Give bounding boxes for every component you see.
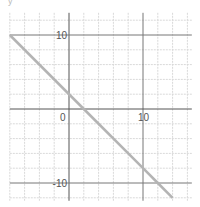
x-tick-label: 0 — [60, 112, 66, 123]
x-tick-label: 10 — [138, 112, 150, 123]
line-chart: 01010-10 — [0, 0, 200, 207]
y-tick-label: 10 — [56, 30, 68, 41]
major-grid — [10, 13, 192, 201]
minor-grid — [10, 13, 192, 201]
y-tick-label: -10 — [53, 178, 68, 189]
